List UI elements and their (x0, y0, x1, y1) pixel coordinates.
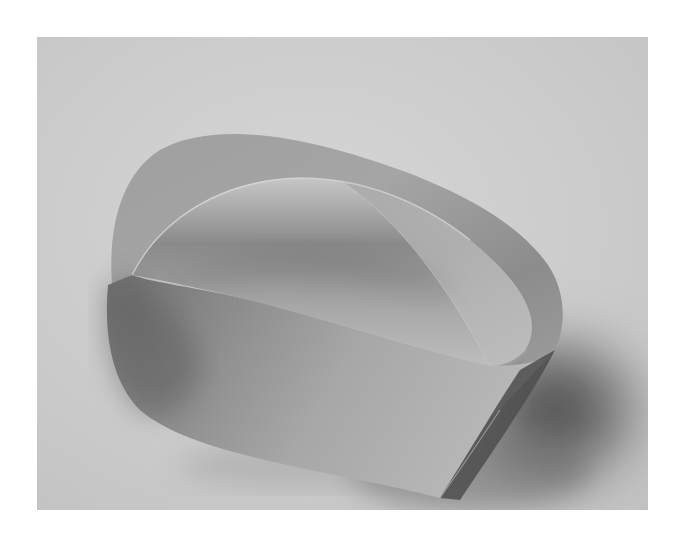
mobius-strip-photo (0, 0, 685, 537)
photo-frame: Möbius strip (0, 0, 685, 537)
